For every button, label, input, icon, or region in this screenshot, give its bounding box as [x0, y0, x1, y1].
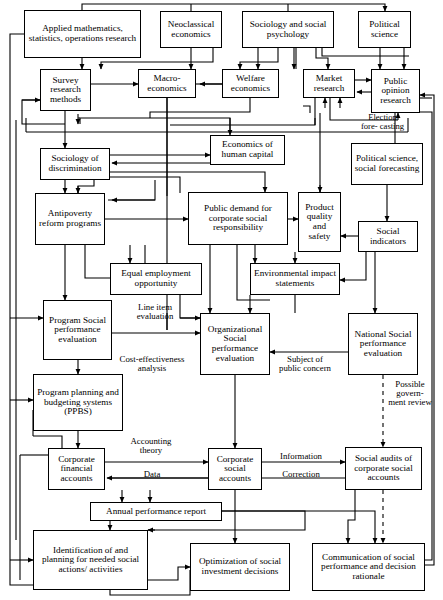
node-label: Annual performance report	[104, 507, 208, 517]
node-label: National Social performance evaluation	[349, 330, 417, 359]
node-label: Product quality and safety	[299, 203, 340, 241]
node-label: Political science	[359, 20, 410, 39]
node-political-science[interactable]: Political science	[358, 11, 411, 48]
edge-label-text: Correction	[274, 470, 328, 479]
node-label: Economics of human capital	[211, 140, 284, 159]
node-label: Program Social performance evaluation	[44, 316, 111, 345]
node-political-science-social-forecasting[interactable]: Political science, social forecasting	[351, 143, 423, 185]
edge-label-information: Information	[272, 452, 330, 461]
node-public-demand-corporate-social-responsibility[interactable]: Public demand for corporate social respo…	[188, 192, 288, 245]
node-macro-economics[interactable]: Macro- economics	[138, 69, 196, 98]
node-applied-mathematics[interactable]: Applied mathematics, statistics, operati…	[24, 10, 141, 58]
edge-label-text: Accounting theory	[120, 437, 182, 455]
node-organizational-social-performance-evaluation[interactable]: Organizational Social performance evalua…	[200, 313, 270, 375]
edge-label-text: Subject of public concern	[275, 355, 335, 373]
node-label: Public opinion research	[372, 77, 419, 106]
node-label: Social indicators	[359, 227, 417, 246]
node-label: Equal employment opportunity	[111, 269, 201, 288]
node-label: Organizational Social performance evalua…	[201, 325, 269, 363]
node-sociology-of-discrimination[interactable]: Sociology of discrimination	[40, 148, 110, 180]
node-label: Public demand for corporate social respo…	[189, 204, 287, 233]
node-optimization-of-social-investment-decisions[interactable]: Optimization of social investment decisi…	[190, 543, 290, 591]
node-ppbs[interactable]: Program planning and budgeting systems (…	[33, 374, 123, 431]
node-label: Program planning and budgeting systems (…	[34, 388, 122, 417]
node-label: Social audits of corporate social accoun…	[346, 454, 421, 483]
edge-label-data: Data	[137, 470, 167, 479]
node-label: Market research	[304, 74, 354, 93]
node-communication-of-social-performance[interactable]: Communication of social performance and …	[312, 543, 425, 591]
node-label: Identification of and planning for neede…	[34, 546, 147, 575]
node-corporate-financial-accounts[interactable]: Corporate financial accounts	[48, 448, 105, 490]
node-label: Sociology and social psychology	[243, 20, 333, 39]
edge-label-subject-of-public-concern: Subject of public concern	[275, 355, 335, 373]
node-label: Sociology of discrimination	[41, 154, 109, 173]
edge-label-possible-government-review: Possible govern- ment review	[388, 380, 432, 408]
node-label: Corporate financial accounts	[49, 455, 104, 484]
node-welfare-economics[interactable]: Welfare economics	[222, 69, 279, 98]
node-sociology-social-psychology[interactable]: Sociology and social psychology	[242, 11, 334, 48]
edge-label-line-item-evaluation: Line item evaluation	[122, 303, 188, 321]
node-label: Political science, social forecasting	[352, 154, 422, 173]
node-public-opinion-research[interactable]: Public opinion research	[371, 69, 420, 113]
node-corporate-social-accounts[interactable]: Corporate social accounts	[208, 448, 262, 490]
edge-label-text: Election fore- casting	[360, 113, 405, 131]
node-label: Applied mathematics, statistics, operati…	[25, 24, 140, 43]
node-label: Macro- economics	[139, 74, 195, 93]
node-label: Optimization of social investment decisi…	[191, 557, 289, 576]
node-social-indicators[interactable]: Social indicators	[358, 221, 418, 252]
edge-label-text: Possible govern- ment review	[388, 380, 432, 408]
edge-label-correction: Correction	[274, 470, 328, 479]
node-label: Survey research methods	[41, 76, 90, 105]
edge-label-accounting-theory: Accounting theory	[120, 437, 182, 455]
node-economics-of-human-capital[interactable]: Economics of human capital	[210, 135, 285, 165]
node-equal-employment-opportunity[interactable]: Equal employment opportunity	[110, 263, 202, 295]
node-product-quality-and-safety[interactable]: Product quality and safety	[298, 192, 341, 252]
edge-label-election-forecasting: Election fore- casting	[360, 113, 405, 131]
node-market-research[interactable]: Market research	[303, 69, 355, 98]
node-national-social-performance-evaluation[interactable]: National Social performance evaluation	[348, 313, 418, 375]
node-label: Communication of social performance and …	[313, 553, 424, 582]
flow-diagram: Applied mathematics, statistics, operati…	[0, 0, 443, 600]
node-survey-research-methods[interactable]: Survey research methods	[40, 69, 91, 111]
node-environmental-impact-statements[interactable]: Environmental impact statements	[250, 263, 340, 295]
node-neoclassical-economics[interactable]: Neoclassical economics	[160, 11, 222, 48]
node-label: Welfare economics	[223, 74, 278, 93]
node-label: Antipoverty reform programs	[36, 209, 104, 228]
node-identification-and-planning[interactable]: Identification of and planning for neede…	[33, 530, 148, 590]
node-label: Corporate social accounts	[209, 455, 261, 484]
node-annual-performance-report[interactable]: Annual performance report	[90, 502, 222, 521]
node-label: Neoclassical economics	[161, 20, 221, 39]
node-social-audits-of-corporate-social-accounts[interactable]: Social audits of corporate social accoun…	[345, 447, 422, 490]
edge-label-text: Data	[137, 470, 167, 479]
node-program-social-performance-evaluation[interactable]: Program Social performance evaluation	[43, 300, 112, 360]
edge-label-text: Information	[272, 452, 330, 461]
node-label: Environmental impact statements	[251, 269, 339, 288]
edge-label-cost-effectiveness-analysis: Cost-effectiveness analysis	[110, 355, 194, 373]
node-antipoverty-reform-programs[interactable]: Antipoverty reform programs	[35, 193, 105, 245]
edge-label-text: Line item evaluation	[122, 303, 188, 321]
edge-label-text: Cost-effectiveness analysis	[110, 355, 194, 373]
